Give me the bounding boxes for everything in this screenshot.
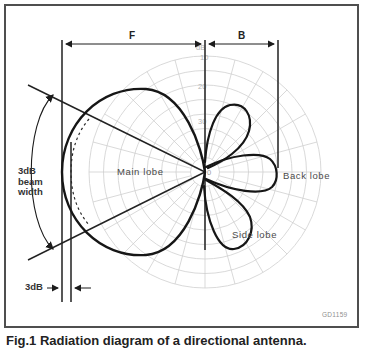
- grid-spoke: [215, 90, 287, 162]
- tick-10: 10: [200, 53, 208, 62]
- grid-spoke: [123, 90, 195, 162]
- grid-spoke: [123, 182, 195, 254]
- back-lobe-label: Back lobe: [283, 170, 330, 181]
- 3db-offset-label: 3dB: [25, 282, 43, 293]
- origin-label: 0: [207, 168, 211, 177]
- 3db-contour-dotted-curve: [71, 119, 89, 225]
- back-region-label: B: [238, 30, 245, 41]
- front-region-label: F: [129, 30, 135, 41]
- beamwidth-label-line3: width: [18, 187, 43, 198]
- side-lobe-label: Side lobe: [232, 229, 277, 240]
- drawing-code: GD1159: [322, 311, 348, 318]
- figure-caption: Fig.1 Radiation diagram of a directional…: [6, 333, 307, 348]
- beamwidth-label: 3dB beam width: [18, 166, 43, 198]
- beamwidth-label-line1: 3dB: [18, 166, 43, 177]
- beamwidth-upper-line: [28, 85, 205, 172]
- main-lobe-label: Main lobe: [117, 166, 164, 177]
